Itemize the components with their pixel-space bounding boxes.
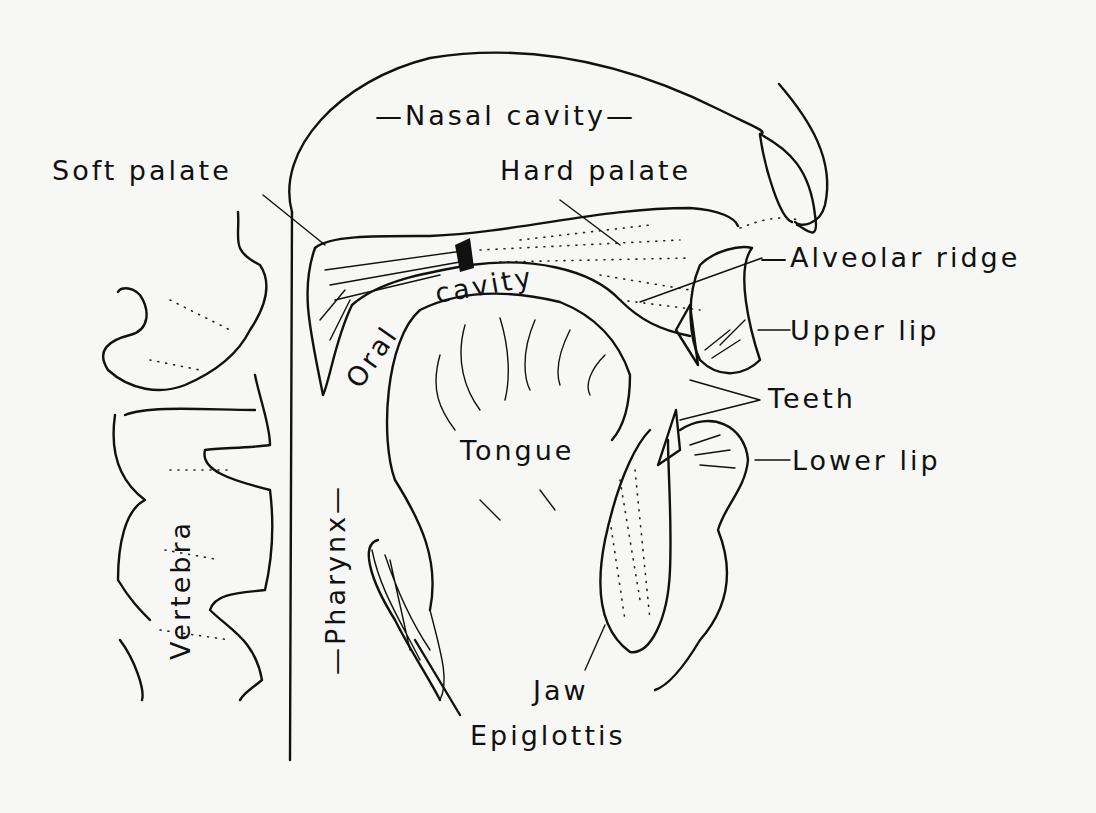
label-lower-lip: Lower lip: [792, 445, 941, 476]
label-nasal-cavity: —Nasal cavity—: [375, 100, 636, 131]
label-alveolar-ridge: —Alveolar ridge: [760, 242, 1020, 273]
vocal-tract-diagram: —Nasal cavity— Soft palate Hard palate —…: [0, 0, 1096, 813]
lower-lip-jaw-shape: [600, 421, 748, 690]
label-soft-palate: Soft palate: [52, 155, 232, 186]
epiglottis-shape: [369, 540, 460, 715]
label-jaw: Jaw: [531, 675, 589, 706]
label-epiglottis: Epiglottis: [470, 720, 626, 751]
label-teeth: Teeth: [767, 383, 856, 414]
label-pharynx: —Pharynx—: [320, 484, 351, 675]
label-tongue: Tongue: [459, 435, 574, 466]
label-upper-lip: Upper lip: [790, 315, 939, 346]
label-vertebra: Vertebra: [165, 520, 196, 660]
label-hard-palate: Hard palate: [500, 155, 691, 186]
